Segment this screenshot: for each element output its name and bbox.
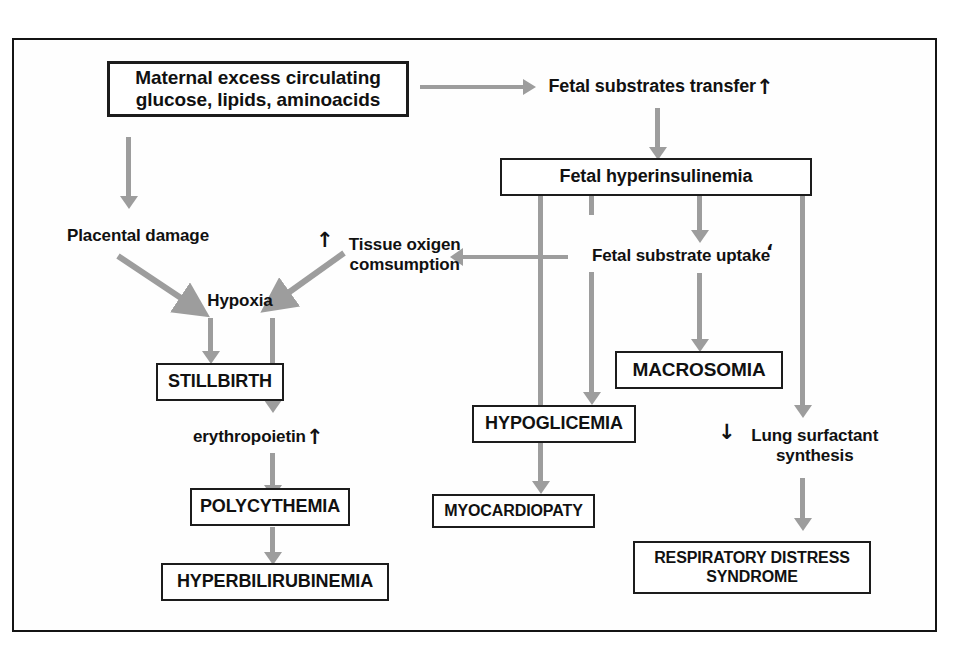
- up-arrow-icon-tissue: ↑: [316, 228, 334, 252]
- node-myocardiopaty[interactable]: MYOCARDIOPATY: [432, 494, 595, 528]
- node-maternal-excess-label: Maternal excess circulating glucose, lip…: [135, 67, 380, 112]
- node-hyperbilirubinemia-label: HYPERBILIRUBINEMIA: [177, 571, 373, 592]
- node-fetal-hyperinsulinemia[interactable]: Fetal hyperinsulinemia: [500, 158, 812, 196]
- edge-erythropoietin-to-polycythemia-line: [270, 453, 275, 487]
- node-maternal-excess[interactable]: Maternal excess circulating glucose, lip…: [107, 61, 409, 117]
- edge-hyperinsulinemia-to-hypoglicemia-arrowhead: [583, 392, 601, 405]
- edge-hypoglicemia-to-myocardiopaty-line: [538, 443, 543, 483]
- up-arrow-icon-erythropoietin: ↑: [306, 425, 324, 450]
- node-fetal-substrates-transfer[interactable]: Fetal substrates transfer↑: [545, 72, 777, 102]
- node-polycythemia-label: POLYCYTHEMIA: [200, 496, 340, 517]
- node-tissue-oxigen-comsumption[interactable]: ↑Tissue oxigen comsumption: [316, 228, 476, 282]
- edge-uptake-to-tissueoxigen-line: [462, 255, 568, 259]
- edge-maternal-to-placental-line: [126, 137, 131, 199]
- diagram-canvas: Maternal excess circulating glucose, lip…: [0, 0, 967, 651]
- uptake-tick-mark: ‘: [766, 240, 773, 262]
- edge-hyperinsulinemia-to-hypoglicemia-line: [589, 196, 594, 215]
- edge-hyperinsulinemia-to-hypoglicemia-line-lower: [589, 272, 594, 394]
- edge-hyperinsulinemia-to-uptake-line: [697, 196, 702, 232]
- node-hypoxia[interactable]: Hypoxia: [191, 287, 289, 315]
- node-erythropoietin[interactable]: erythropoietin↑: [193, 423, 355, 451]
- edge-hypoxia-to-stillbirth-line: [208, 318, 213, 353]
- edge-hyperinsulinemia-to-lungsurfactant-arrowhead: [794, 405, 812, 418]
- edge-hyperinsulinemia-to-myocardiopaty-line: [538, 196, 543, 409]
- node-myocardiopaty-label: MYOCARDIOPATY: [444, 502, 583, 521]
- edge-uptake-to-macrosomia-line: [697, 273, 702, 341]
- node-macrosomia-label: MACROSOMIA: [632, 359, 765, 381]
- node-lung-surfactant-synthesis[interactable]: ↓Lung surfactant synthesis: [718, 420, 894, 472]
- node-placental-damage[interactable]: Placental damage: [52, 222, 224, 250]
- node-erythropoietin-label: erythropoietin: [193, 427, 306, 447]
- edge-transfer-to-hyperinsulinemia-line: [655, 108, 660, 150]
- node-stillbirth[interactable]: STILLBIRTH: [156, 363, 284, 401]
- edge-hypoglicemia-to-myocardiopaty-arrowhead: [532, 481, 550, 494]
- node-fetal-substrate-uptake-label: Fetal substrate uptake: [592, 246, 770, 266]
- edge-lungsurfactant-to-rds-line: [800, 478, 805, 520]
- node-hyperbilirubinemia[interactable]: HYPERBILIRUBINEMIA: [161, 563, 389, 601]
- node-macrosomia[interactable]: MACROSOMIA: [615, 351, 783, 389]
- node-hypoxia-label: Hypoxia: [207, 291, 272, 311]
- edge-hyperinsulinemia-to-lungsurfactant-line: [800, 196, 805, 407]
- edge-maternal-to-transfer-line: [420, 85, 525, 89]
- edge-maternal-to-transfer-arrowhead: [523, 79, 536, 95]
- node-stillbirth-label: STILLBIRTH: [168, 371, 272, 392]
- node-placental-damage-label: Placental damage: [67, 226, 209, 246]
- node-hypoglicemia[interactable]: HYPOGLICEMIA: [472, 405, 636, 443]
- node-respiratory-distress-syndrome-label: RESPIRATORY DISTRESS SYNDROME: [654, 549, 850, 587]
- edge-hypoxia-to-erythropoietin-arrowhead: [264, 400, 282, 413]
- edge-maternal-to-placental-arrowhead: [120, 196, 138, 209]
- node-respiratory-distress-syndrome[interactable]: RESPIRATORY DISTRESS SYNDROME: [633, 541, 871, 594]
- down-arrow-icon-lung: ↓: [718, 420, 736, 444]
- node-fetal-substrates-transfer-label: Fetal substrates transfer: [548, 76, 756, 97]
- up-arrow-icon: ↑: [756, 75, 774, 100]
- node-fetal-substrate-uptake[interactable]: Fetal substrate uptake: [565, 241, 797, 271]
- node-hypoglicemia-label: HYPOGLICEMIA: [485, 413, 623, 434]
- edge-lungsurfactant-to-rds-arrowhead: [794, 518, 812, 531]
- node-lung-surfactant-synthesis-label: Lung surfactant synthesis: [736, 426, 895, 466]
- edge-polycythemia-to-hyperbilirubinemia-line: [270, 527, 275, 554]
- node-tissue-oxigen-comsumption-label: Tissue oxigen comsumption: [334, 235, 477, 275]
- node-fetal-hyperinsulinemia-label: Fetal hyperinsulinemia: [560, 166, 753, 187]
- node-polycythemia[interactable]: POLYCYTHEMIA: [190, 488, 350, 526]
